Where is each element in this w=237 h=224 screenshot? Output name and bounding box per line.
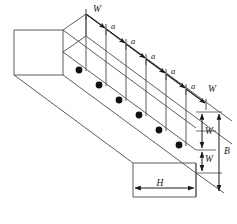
load-arrow-6 [186,89,205,103]
beam-edge-upper [63,30,196,128]
label-spacing-4: a [171,66,175,76]
load-arrow-5 [166,74,185,88]
right-dimension-stack [196,112,222,191]
load-arrow-1 [86,14,105,28]
right-end-face [133,163,196,197]
far-top-diagonal [214,108,232,121]
label-b: B [224,146,230,156]
label-w-upper: W [205,126,214,136]
beam-edge-bottom-outer [63,75,196,173]
load-arrow-3 [126,44,145,58]
label-spacing-1: a [111,21,115,31]
label-h: H [156,178,165,188]
load-arrow-4 [146,59,165,73]
beam-diagram-svg: W a a a a a W W W B H [0,0,237,224]
load-node-6 [176,142,183,149]
load-arrow-segments [86,14,205,103]
figure-container: W a a a a a W W W B H [0,0,237,224]
load-arrow-2 [106,29,125,43]
load-node-2 [96,82,103,89]
label-load-start: W [93,4,102,14]
label-spacing-2: a [131,36,135,46]
far-mid-diagonal [214,131,232,144]
far-lower-diagonal [196,173,224,193]
left-face-top-edge [63,14,86,30]
label-w-lower: W [205,154,214,164]
beam-edge-bottom-left [14,75,133,163]
label-spacing-5: a [191,81,195,91]
label-group: W a a a a a W W W B H [93,4,230,188]
left-end-face [14,30,63,75]
load-node-4 [136,112,143,119]
label-load-end: W [208,84,217,94]
beam-edge-lower [63,52,196,150]
load-node-5 [156,127,163,134]
load-node-1 [76,67,83,74]
label-spacing-3: a [151,51,155,61]
load-node-3 [116,97,123,104]
